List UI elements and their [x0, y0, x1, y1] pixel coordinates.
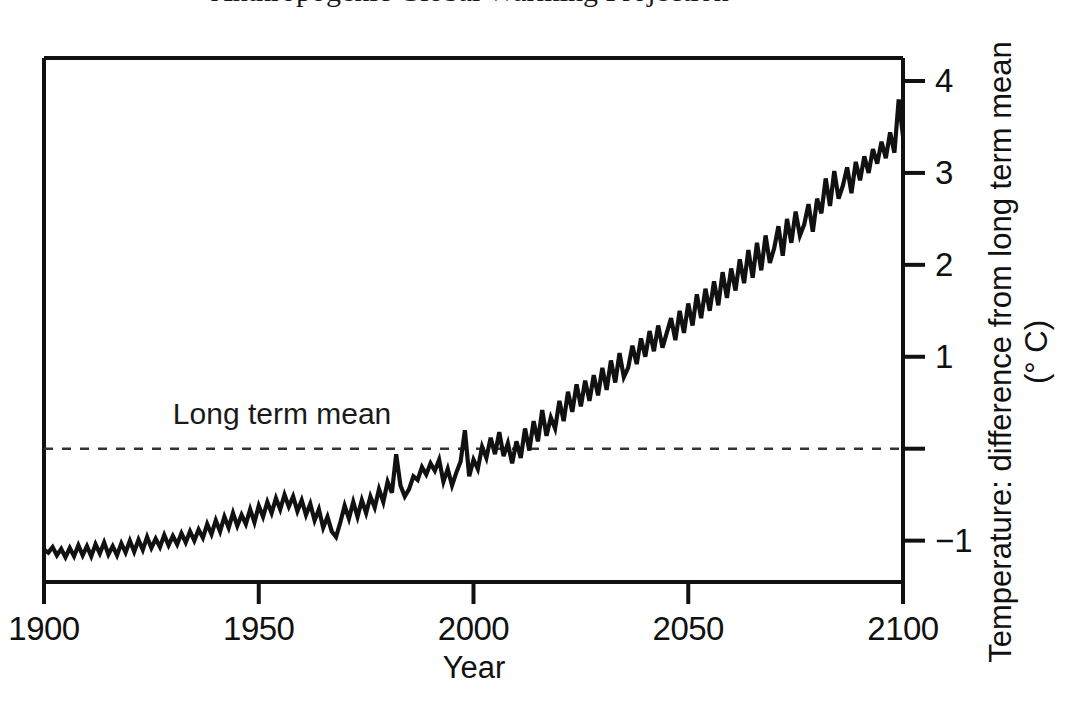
y-axis-tick-label: 3: [935, 154, 953, 192]
y-axis-unit-label: (° C): [1019, 41, 1055, 662]
plot-canvas: [0, 0, 1072, 704]
x-axis-tick-label: 1900: [8, 610, 79, 648]
x-axis-ticks: [44, 582, 903, 604]
plot-frame: [44, 58, 903, 582]
x-axis-tick-label: 1950: [223, 610, 294, 648]
y-axis-title: Temperature: difference from long term m…: [983, 41, 1054, 662]
x-axis-tick-label: 2000: [438, 610, 509, 648]
x-axis-title: Year: [44, 650, 904, 686]
y-axis-tick-label: 2: [935, 246, 953, 284]
y-axis-tick-label: 1: [935, 338, 953, 376]
x-axis-tick-label: 2100: [867, 610, 938, 648]
chart-figure: Anthropogenic Global Warming Projection …: [0, 0, 1072, 704]
x-axis-tick-label: 2050: [653, 610, 724, 648]
y-axis-tick-label: 4: [935, 62, 953, 100]
y-axis-ticks: [903, 81, 925, 541]
y-axis-title-text: Temperature: difference from long term m…: [983, 41, 1018, 662]
temperature-anomaly-line: [44, 99, 903, 557]
y-axis-title-wrapper: Temperature: difference from long term m…: [966, 0, 1072, 704]
long-term-mean-annotation: Long term mean: [173, 397, 391, 431]
